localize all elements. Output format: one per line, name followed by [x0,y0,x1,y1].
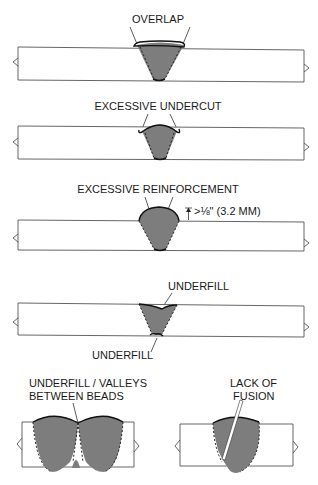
label-valleys-line1: UNDERFILL / VALLEYS [29,377,147,389]
label-lack-of-fusion-line2: FUSION [233,390,275,402]
weld-defects-diagram: OVERLAP EXCESSIVE UNDERCUT EXCESSIVE REI… [0,0,318,485]
panel-excessive-undercut: EXCESSIVE UNDERCUT [13,100,309,160]
panel-excessive-reinforcement: EXCESSIVE REINFORCEMENT >⅛" (3.2 MM) [13,183,309,251]
label-excessive-undercut: EXCESSIVE UNDERCUT [94,100,221,112]
label-lack-of-fusion-line1: LACK OF [230,377,277,389]
panel-underfill-valleys: UNDERFILL / VALLEYS BETWEEN BEADS [17,377,147,472]
panel-underfill: UNDERFILL UNDERFILL [13,280,309,361]
label-underfill-bottom: UNDERFILL [92,349,153,361]
leader-line [183,27,190,44]
dimension-label: >⅛" (3.2 MM) [194,205,261,217]
panel-lack-of-fusion: LACK OF FUSION [175,377,298,473]
leader-line [130,27,137,44]
label-overlap: OVERLAP [132,13,184,25]
panel-overlap: OVERLAP [13,13,309,82]
label-underfill-top: UNDERFILL [168,280,229,292]
label-excessive-reinforcement: EXCESSIVE REINFORCEMENT [77,183,239,195]
leader-line [73,403,78,423]
label-valleys-line2: BETWEEN BEADS [29,390,124,402]
